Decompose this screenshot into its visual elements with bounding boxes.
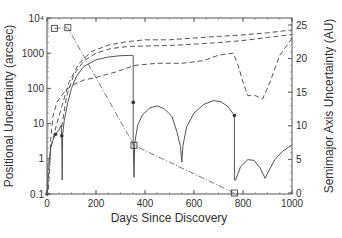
x-tick-label: 0 bbox=[44, 198, 50, 209]
plot-series bbox=[45, 25, 292, 196]
chart: 020040060080010000.1110100100010⁴0510152… bbox=[0, 0, 342, 238]
dot-marker bbox=[233, 114, 237, 118]
dot-marker bbox=[131, 101, 135, 105]
y-right-tick-label: 0 bbox=[296, 188, 302, 199]
y-left-tick-label: 1 bbox=[38, 153, 44, 164]
y-left-tick-label: 10 bbox=[33, 118, 45, 129]
series-line-0 bbox=[47, 55, 292, 194]
y-left-tick-label: 1000 bbox=[22, 48, 45, 59]
x-tick-label: 600 bbox=[186, 198, 203, 209]
y-axis-right-title: Semimajor Axis Uncertainty (AU) bbox=[322, 19, 336, 194]
y-right-tick-label: 15 bbox=[296, 87, 308, 98]
x-axis-title: Days Since Discovery bbox=[111, 211, 228, 225]
dot-marker bbox=[54, 132, 58, 136]
series-line-4 bbox=[54, 28, 234, 193]
y-left-tick-label: 100 bbox=[27, 83, 44, 94]
y-right-tick-label: 5 bbox=[296, 154, 302, 165]
y-right-tick-label: 25 bbox=[296, 20, 308, 31]
y-axis-left-title: Positional Uncertainty (arcsec) bbox=[2, 25, 16, 188]
square-marker bbox=[231, 190, 237, 196]
y-right-tick-label: 10 bbox=[296, 120, 308, 131]
y-right-tick-label: 20 bbox=[296, 53, 308, 64]
y-left-tick-label: 0.1 bbox=[30, 189, 44, 200]
plot-frame bbox=[47, 18, 292, 194]
x-tick-label: 800 bbox=[235, 198, 252, 209]
dot-marker bbox=[60, 134, 64, 138]
x-tick-label: 1000 bbox=[281, 198, 304, 209]
x-tick-label: 400 bbox=[137, 198, 154, 209]
x-tick-label: 200 bbox=[88, 198, 105, 209]
series-line-2 bbox=[62, 35, 292, 128]
series-line-1 bbox=[47, 30, 292, 194]
y-left-tick-label: 10⁴ bbox=[29, 13, 44, 24]
